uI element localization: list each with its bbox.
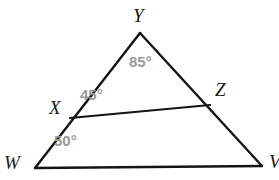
triangle-drawing: [0, 0, 279, 180]
segment-x-z: [70, 105, 210, 118]
vertex-label-z: Z: [215, 80, 226, 99]
geometry-figure: Y X Z W V 85° 45° 50°: [0, 0, 279, 180]
vertex-label-v: V: [269, 152, 279, 171]
vertex-label-x: X: [49, 98, 61, 117]
vertex-label-w: W: [4, 153, 20, 172]
segment-y-v: [140, 33, 262, 166]
angle-measure-w: 50°: [54, 133, 77, 148]
segment-w-v: [35, 166, 262, 168]
angle-measure-x: 45°: [80, 87, 103, 102]
vertex-label-y: Y: [133, 6, 144, 25]
angle-measure-y: 85°: [129, 54, 152, 69]
